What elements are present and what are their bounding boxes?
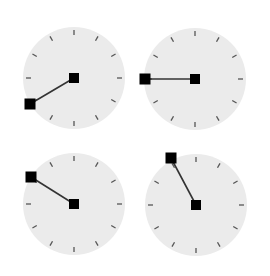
hand-end-handle[interactable] bbox=[25, 99, 36, 110]
clock-2 bbox=[140, 28, 247, 130]
center-handle[interactable] bbox=[191, 200, 201, 210]
center-handle[interactable] bbox=[69, 73, 79, 83]
clock-3 bbox=[23, 153, 125, 255]
clock-1 bbox=[23, 27, 125, 129]
hand-end-handle[interactable] bbox=[140, 74, 151, 85]
hand-end-handle[interactable] bbox=[26, 172, 37, 183]
clock-4 bbox=[145, 153, 247, 257]
center-handle[interactable] bbox=[69, 199, 79, 209]
clock-grid bbox=[0, 0, 270, 276]
center-handle[interactable] bbox=[190, 74, 200, 84]
hand-end-handle[interactable] bbox=[166, 153, 177, 164]
